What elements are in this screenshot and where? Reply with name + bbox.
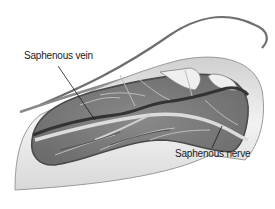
saphenous-vein-label: Saphenous vein [24, 50, 93, 61]
anatomy-illustration [0, 0, 275, 209]
saphenous-nerve-label: Saphenous nerve [175, 148, 250, 159]
saphenous-anatomy-figure: Saphenous vein Saphenous nerve [0, 0, 275, 209]
